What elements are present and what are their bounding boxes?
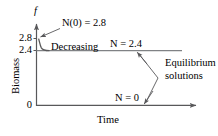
equilibrium-callout-arrow-upper: [137, 52, 147, 64]
x-axis-title: Time: [97, 115, 119, 126]
y-tick-label-2-4: 2.4: [14, 45, 32, 56]
equilibrium-callout-arrow-lower: [144, 91, 153, 104]
biomass-equilibrium-figure: f 2.8 2.4 0 Biomass Time N(0) = 2.8 Decr…: [0, 0, 218, 136]
equilibrium-callout-connector: [139, 54, 158, 102]
equilibrium-lower-label: N = 0: [115, 93, 139, 104]
equilibrium-callout-line1: Equilibrium: [165, 58, 216, 69]
y-axis-title: Biomass: [11, 58, 22, 94]
decreasing-solution-curve: [39, 39, 50, 51]
decreasing-label: Decreasing: [51, 42, 98, 53]
initial-condition-arrow: [41, 29, 61, 38]
y-tick-label-2-8: 2.8: [14, 33, 32, 44]
equilibrium-upper-label: N = 2.4: [110, 39, 142, 50]
y-tick-label-0: 0: [14, 100, 32, 111]
initial-condition-label: N(0) = 2.8: [62, 18, 106, 29]
y-axis-symbol: f: [34, 6, 37, 17]
equilibrium-callout-line2: solutions: [165, 71, 203, 82]
